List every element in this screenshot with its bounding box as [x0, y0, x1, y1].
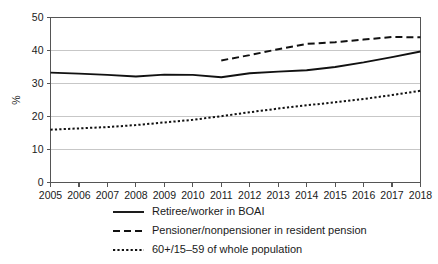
y-axis-title: % — [10, 95, 22, 104]
x-tick-label: 2007 — [96, 189, 120, 201]
series-line-1 — [51, 51, 421, 77]
x-tick-label: 2013 — [267, 189, 291, 201]
y-tick-label: 0 — [38, 176, 44, 188]
x-tick-label: 2008 — [124, 189, 148, 201]
x-tick-label: 2015 — [323, 189, 347, 201]
x-tick-label: 2012 — [238, 189, 262, 201]
x-tick-label: 2017 — [380, 189, 404, 201]
legend-label-2: Pensioner/nonpensioner in resident pensi… — [152, 224, 367, 236]
x-tick-label: 2010 — [181, 189, 205, 201]
x-tick-label: 2014 — [295, 189, 319, 201]
y-tick-label: 40 — [32, 44, 44, 56]
x-tick-label: 2016 — [352, 189, 376, 201]
chart-figure: 0102030405020052006200720082009201020112… — [0, 0, 438, 264]
plot-area-frame — [51, 18, 421, 183]
x-tick-label: 2011 — [210, 189, 233, 201]
y-tick-label: 30 — [32, 77, 44, 89]
x-tick-label: 2005 — [39, 189, 63, 201]
y-tick-label: 10 — [32, 143, 44, 155]
x-tick-label: 2009 — [153, 189, 177, 201]
y-tick-label: 50 — [32, 11, 44, 23]
line-chart: 0102030405020052006200720082009201020112… — [0, 0, 438, 264]
legend-label-1: Retiree/worker in BOAI — [152, 205, 264, 217]
y-tick-label: 20 — [32, 110, 44, 122]
x-tick-label: 2006 — [67, 189, 91, 201]
legend-label-3: 60+/15–59 of whole population — [152, 243, 302, 255]
x-tick-label: 2018 — [409, 189, 433, 201]
series-line-3 — [51, 91, 421, 130]
